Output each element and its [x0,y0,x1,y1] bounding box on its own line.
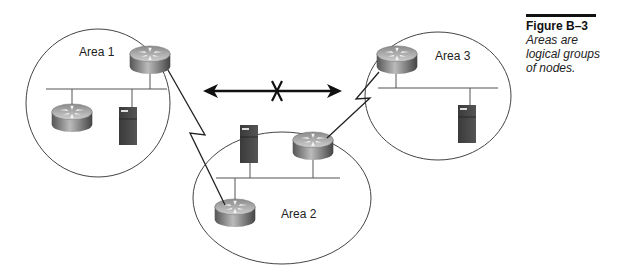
figure-number: Figure B–3 [526,19,616,33]
figure-caption: Figure B–3 Areas are logical groups of n… [526,14,616,75]
server-icon [458,105,476,143]
router-icon [215,199,256,227]
caption-line: of nodes. [526,61,616,75]
caption-rule [526,14,596,17]
caption-line: Areas are [526,33,616,47]
serial-link-area2-area3 [327,72,379,138]
area-2-boundary [193,132,371,264]
server-icon [119,107,137,145]
router-icon [52,104,93,132]
area-3: Area 3 [365,32,511,160]
blocked-double-arrow [203,81,342,101]
caption-line: logical groups [526,47,616,61]
area-1: Area 1 [26,29,170,177]
area-1-label: Area 1 [79,45,115,59]
router-icon [130,46,171,74]
router-icon [293,132,334,160]
network-diagram: Area 1 Area 2 Area 3 [0,0,617,269]
area-2-label: Area 2 [281,207,317,221]
area-3-label: Area 3 [435,49,471,63]
router-icon [377,46,418,74]
server-icon [240,125,258,163]
